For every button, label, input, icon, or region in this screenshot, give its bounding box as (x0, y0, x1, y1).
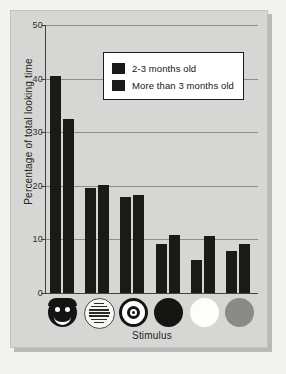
white-circle-stimulus-icon (190, 298, 219, 327)
bullseye-stimulus-icon (119, 298, 148, 327)
gridline (46, 239, 258, 240)
y-axis-title: Percentage of total looking time (23, 32, 34, 232)
bar (50, 76, 61, 293)
bar (98, 185, 109, 293)
bullseye-center (132, 311, 135, 314)
black-circle-stimulus-icon (154, 298, 183, 327)
legend-label: More than 3 months old (132, 80, 234, 91)
legend-swatch-icon (112, 80, 125, 91)
bar (85, 188, 96, 293)
x-axis-line (45, 293, 258, 294)
bar (120, 197, 131, 293)
bar (133, 195, 144, 293)
gridline (46, 186, 258, 187)
newsprint-line (91, 306, 107, 307)
face-eye-right (65, 307, 70, 312)
newsprint-stimulus-icon (84, 298, 115, 329)
newsprint-line (89, 309, 109, 310)
stimulus-icon-row (46, 297, 258, 329)
bar (169, 235, 180, 293)
chart-legend: 2-3 months old More than 3 months old (103, 52, 244, 100)
legend-item-young: 2-3 months old (112, 63, 235, 74)
x-axis-title: Stimulus (46, 330, 258, 341)
newsprint-line (91, 319, 107, 320)
y-axis-ticks: 01020304050 (0, 0, 43, 294)
gray-circle-stimulus-icon (225, 298, 254, 327)
face-hair (48, 298, 77, 306)
face-stimulus-icon (48, 298, 77, 327)
newsprint-line (94, 322, 104, 323)
bar (156, 244, 167, 293)
legend-label: 2-3 months old (132, 63, 196, 74)
gridline (46, 25, 258, 26)
bar (191, 260, 202, 293)
legend-item-older: More than 3 months old (112, 80, 235, 91)
legend-swatch-icon (112, 63, 125, 74)
bar (239, 244, 250, 293)
newsprint-line (89, 315, 109, 316)
face-mouth (54, 313, 71, 325)
gridline (46, 132, 258, 133)
bar (63, 119, 74, 293)
face-eye-left (55, 307, 60, 312)
bar (226, 251, 237, 293)
y-axis-line (45, 25, 46, 294)
figure-root: 01020304050 Percentage of total looking … (0, 0, 286, 374)
newsprint-line (89, 312, 110, 313)
bar (204, 236, 215, 293)
newsprint-line (94, 303, 104, 304)
